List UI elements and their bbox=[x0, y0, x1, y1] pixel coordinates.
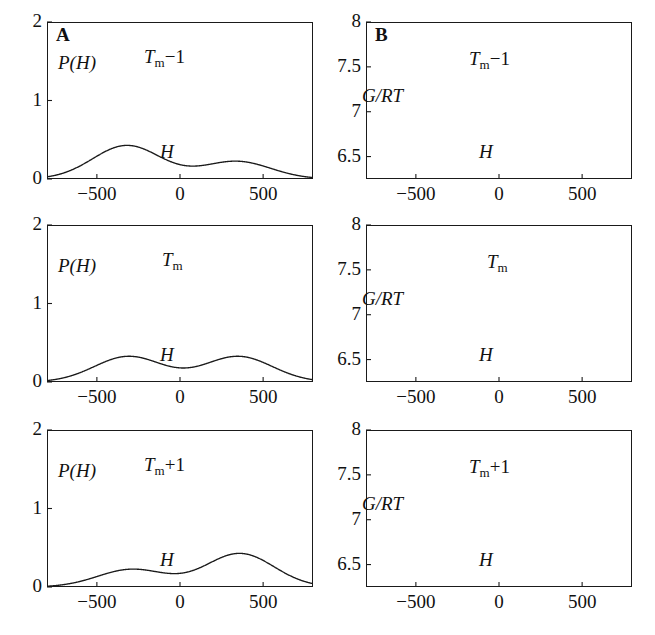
x-axis-tick-label: −500 bbox=[381, 591, 451, 613]
y-axis-tick-label: 6.5 bbox=[317, 553, 361, 575]
y-axis-tick-label: 8 bbox=[317, 418, 361, 440]
x-axis-title-h: H bbox=[479, 549, 493, 571]
y-axis-tick-label: 7 bbox=[317, 508, 361, 530]
plot-panel-b-tm-plus-1: 87.576.5−5000500G/RTHTm+1 bbox=[0, 0, 655, 635]
y-axis-tick-label: 7.5 bbox=[317, 463, 361, 485]
temperature-annotation: Tm+1 bbox=[469, 456, 510, 481]
y-axis-title-grt: G/RT bbox=[362, 493, 403, 515]
x-axis-tick-label: 500 bbox=[547, 591, 617, 613]
x-axis-tick-label: 0 bbox=[464, 591, 534, 613]
figure-root: 210−5000500AP(H)HTm−187.576.5−5000500BG/… bbox=[0, 0, 655, 635]
